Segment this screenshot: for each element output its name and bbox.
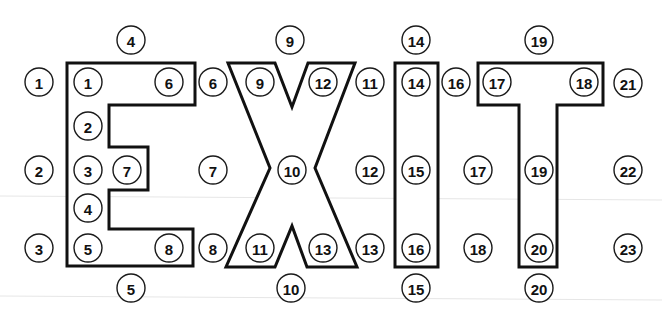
badge-outer-4: 4 — [117, 26, 145, 54]
badge-outer-14: 14 — [402, 26, 430, 54]
badge-inner-x-10: 10 — [278, 156, 306, 184]
badge-inner-x-12: 12 — [309, 68, 337, 96]
badge-outer-9: 9 — [276, 26, 304, 54]
badge-outer-13: 13 — [356, 234, 384, 262]
badge-number: 23 — [620, 241, 637, 258]
badge-number: 16 — [448, 75, 465, 92]
badge-number: 2 — [84, 119, 92, 136]
badge-number: 20 — [531, 281, 548, 298]
badge-number: 17 — [470, 163, 487, 180]
diagram-canvas: 1234512374568678991210111310111213141415… — [0, 0, 662, 328]
badge-number: 9 — [286, 33, 294, 50]
badge-number: 11 — [252, 241, 268, 258]
badge-number: 5 — [127, 281, 135, 298]
badge-outer-10: 10 — [277, 274, 305, 302]
badge-inner-t-20: 20 — [525, 234, 553, 262]
badge-number: 15 — [408, 281, 425, 298]
badge-number: 13 — [315, 241, 332, 258]
badge-outer-19: 19 — [525, 26, 553, 54]
badge-number: 8 — [209, 241, 217, 258]
badge-outer-15: 15 — [402, 274, 430, 302]
badge-inner-e-1: 1 — [74, 68, 102, 96]
badge-number: 1 — [84, 75, 92, 92]
badge-inner-t-19: 19 — [525, 156, 553, 184]
badge-number: 18 — [576, 75, 593, 92]
badge-number: 1 — [35, 75, 43, 92]
badge-inner-x-13: 13 — [309, 234, 337, 262]
badge-number: 6 — [209, 75, 217, 92]
badge-number: 20 — [531, 241, 548, 258]
badge-outer-7: 7 — [199, 156, 227, 184]
badge-number: 18 — [470, 241, 487, 258]
badge-outer-17: 17 — [464, 156, 492, 184]
badge-outer-21: 21 — [614, 69, 642, 97]
badge-number: 22 — [620, 163, 637, 180]
badge-outer-5: 5 — [117, 274, 145, 302]
badge-number: 11 — [362, 75, 378, 92]
badge-outer-6: 6 — [199, 68, 227, 96]
badge-outer-8: 8 — [199, 234, 227, 262]
badge-number: 14 — [408, 75, 425, 92]
badge-inner-e-2: 2 — [74, 112, 102, 140]
badge-inner-i-15: 15 — [402, 156, 430, 184]
badge-inner-e-6: 6 — [155, 68, 183, 96]
badge-number: 15 — [408, 163, 425, 180]
badge-number: 12 — [315, 75, 332, 92]
badge-inner-e-7: 7 — [113, 156, 141, 184]
badge-number: 16 — [408, 241, 425, 258]
badge-number: 10 — [284, 163, 301, 180]
badge-inner-x-11: 11 — [246, 234, 274, 262]
badge-number: 10 — [283, 281, 300, 298]
badge-number: 2 — [35, 163, 43, 180]
badge-inner-x-9: 9 — [246, 68, 274, 96]
badge-outer-2: 2 — [25, 156, 53, 184]
badge-number: 3 — [84, 163, 92, 180]
badge-outer-16: 16 — [442, 68, 470, 96]
badge-number: 13 — [362, 241, 379, 258]
badge-inner-i-16: 16 — [402, 234, 430, 262]
badge-number: 7 — [209, 163, 217, 180]
badge-number: 14 — [408, 33, 425, 50]
letter-outlines — [67, 63, 603, 267]
badge-number: 21 — [620, 76, 637, 93]
badge-number: 5 — [84, 241, 92, 258]
badge-outer-18: 18 — [464, 234, 492, 262]
badge-number: 7 — [123, 163, 131, 180]
badge-number: 4 — [127, 33, 136, 50]
badge-number: 12 — [362, 163, 379, 180]
badge-number: 4 — [84, 201, 93, 218]
badge-inner-e-5: 5 — [74, 234, 102, 262]
badge-number: 3 — [35, 241, 43, 258]
badge-outer-11: 11 — [356, 68, 384, 96]
badge-inner-t-18: 18 — [570, 68, 598, 96]
badge-outer-23: 23 — [614, 234, 642, 262]
badge-number: 6 — [165, 75, 173, 92]
badge-inner-i-14: 14 — [402, 68, 430, 96]
badge-outer-12: 12 — [356, 156, 384, 184]
badge-number: 9 — [256, 75, 264, 92]
badge-inner-e-8: 8 — [155, 234, 183, 262]
badge-number: 17 — [489, 75, 506, 92]
badge-number: 19 — [531, 33, 548, 50]
badge-outer-3: 3 — [25, 234, 53, 262]
badge-number: 19 — [531, 163, 548, 180]
badge-outer-1: 1 — [25, 68, 53, 96]
badge-inner-e-3: 3 — [74, 156, 102, 184]
badge-inner-t-17: 17 — [483, 68, 511, 96]
badge-inner-e-4: 4 — [74, 194, 102, 222]
badge-outer-22: 22 — [614, 156, 642, 184]
badge-outer-20: 20 — [525, 274, 553, 302]
badge-number: 8 — [165, 241, 173, 258]
exit-diagram: 1234512374568678991210111310111213141415… — [0, 0, 662, 328]
